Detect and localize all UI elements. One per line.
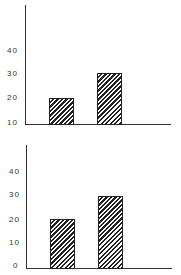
bottom-y-tick-0: 0 (13, 262, 18, 270)
bottom-y-axis (26, 145, 27, 268)
bottom-y-tick-20: 20 (9, 216, 20, 224)
bottom-bar-b (98, 196, 123, 269)
bottom-bar-a (50, 219, 75, 269)
bottom-chart-zero-axis: 40 30 20 10 0 (0, 0, 181, 275)
bottom-y-tick-40: 40 (9, 168, 20, 176)
bottom-y-tick-30: 30 (9, 191, 20, 199)
bottom-y-tick-10: 10 (9, 239, 20, 247)
